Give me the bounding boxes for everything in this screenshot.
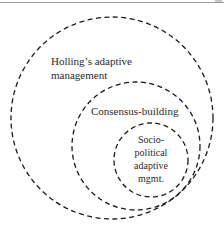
outer-label-line-1: Holling’s adaptive (51, 55, 132, 67)
inner-label-line-4: mgmt. (138, 173, 164, 184)
outer-label-line-2: management (51, 69, 107, 81)
inner-label-line-2: political (135, 147, 168, 158)
middle-label: Consensus-building (91, 105, 179, 117)
outer-circle (11, 17, 213, 219)
middle-circle (72, 82, 200, 210)
inner-label-line-3: adaptive (134, 160, 168, 171)
nested-circles-diagram: Holling’s adaptive management Consensus-… (0, 0, 224, 232)
inner-label-line-1: Socio- (138, 134, 164, 145)
